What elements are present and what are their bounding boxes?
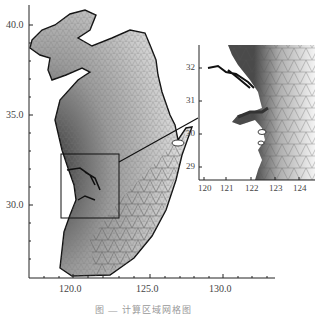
inset-x-tick-label: 121 [220,183,234,193]
inset-x-tick-label: 120 [198,183,212,193]
inset-y-tick-label: 30 [186,128,195,138]
x-tick-label: 120.0 [59,283,82,294]
y-tick-label: 35.0 [6,109,24,120]
inset-y-tick-label: 31 [186,95,195,105]
x-tick-label: 125.0 [136,283,159,294]
inset-x-tick-label: 122 [245,183,259,193]
inset-x-tick-label: 123 [269,183,283,193]
inset-y-tick-label: 29 [186,161,195,171]
y-tick-label: 30.0 [6,199,24,210]
inset-y-tick-label: 32 [186,62,195,72]
inset-x-tick-label: 124 [293,183,307,193]
y-tick-label: 40.0 [6,19,24,30]
figure-caption: 图 — 计算区域网格图 [95,303,192,316]
island [172,140,184,146]
inset-map [199,45,315,180]
main-mesh [30,10,192,276]
x-tick-label: 130.0 [209,283,232,294]
